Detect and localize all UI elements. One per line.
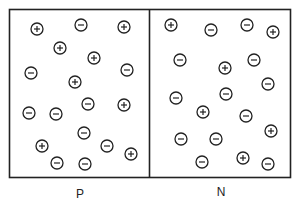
- negative-charge-icon: [79, 158, 91, 170]
- negative-charge-icon: [78, 127, 90, 139]
- negative-charge-icon: [75, 19, 87, 31]
- positive-charge-icon: [88, 52, 100, 64]
- positive-charge-icon: [31, 23, 43, 35]
- negative-charge-icon: [196, 156, 208, 168]
- positive-charge-icon: [197, 106, 209, 118]
- negative-charge-icon: [210, 133, 222, 145]
- negative-charge-icon: [241, 19, 253, 31]
- positive-charge-icon: [237, 152, 249, 164]
- negative-charge-icon: [205, 24, 217, 36]
- negative-charge-icon: [175, 133, 187, 145]
- p-region-label: P: [76, 187, 84, 201]
- negative-charge-icon: [174, 54, 186, 66]
- positive-charge-icon: [125, 148, 137, 160]
- pn-junction-diagram: [0, 0, 299, 209]
- negative-charge-icon: [220, 88, 232, 100]
- positive-charge-icon: [118, 21, 130, 33]
- positive-charge-icon: [219, 62, 231, 74]
- negative-charge-icon: [25, 67, 37, 79]
- positive-charge-icon: [118, 99, 130, 111]
- n-region-charges: [165, 19, 279, 170]
- positive-charge-icon: [69, 76, 81, 88]
- positive-charge-icon: [165, 19, 177, 31]
- negative-charge-icon: [51, 157, 63, 169]
- negative-charge-icon: [121, 64, 133, 76]
- n-region-label: N: [217, 185, 226, 199]
- negative-charge-icon: [240, 110, 252, 122]
- positive-charge-icon: [54, 42, 66, 54]
- negative-charge-icon: [82, 98, 94, 110]
- negative-charge-icon: [170, 92, 182, 104]
- negative-charge-icon: [50, 108, 62, 120]
- negative-charge-icon: [262, 158, 274, 170]
- positive-charge-icon: [36, 140, 48, 152]
- p-region-charges: [23, 19, 137, 170]
- negative-charge-icon: [248, 54, 260, 66]
- positive-charge-icon: [265, 125, 277, 137]
- negative-charge-icon: [262, 78, 274, 90]
- negative-charge-icon: [23, 107, 35, 119]
- positive-charge-icon: [267, 26, 279, 38]
- negative-charge-icon: [101, 140, 113, 152]
